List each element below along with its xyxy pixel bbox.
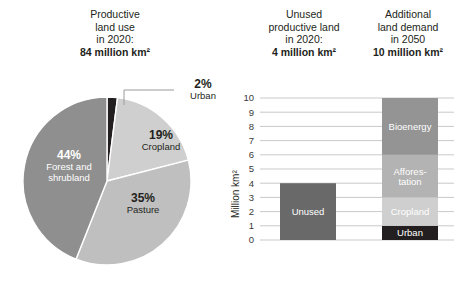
pie-label-forest-name2: shrubland bbox=[28, 172, 110, 183]
y-tick-10: 10 bbox=[243, 92, 254, 103]
pie-header-line2: land use bbox=[45, 21, 185, 34]
pie-label-forest: 44% Forest and shrubland bbox=[28, 150, 110, 183]
bar-segment-label-unused: Unused bbox=[292, 206, 325, 217]
y-tick-9: 9 bbox=[249, 107, 254, 118]
pie-label-urban: 2% Urban bbox=[176, 79, 230, 101]
unused-header-line3: in 2020: bbox=[250, 33, 358, 46]
demand-header-line3: in 2050 bbox=[358, 33, 458, 46]
unused-header-line1: Unused bbox=[250, 8, 358, 21]
bar-segment-label-afforestation: tation bbox=[398, 176, 421, 187]
unused-header-total: 4 million km² bbox=[250, 46, 358, 59]
y-tick-6: 6 bbox=[249, 149, 254, 160]
bar-chart: Million km² 012345678910 UnusedUrbanCrop… bbox=[236, 90, 458, 255]
pie-label-forest-name1: Forest and bbox=[28, 161, 110, 172]
y-tick-2: 2 bbox=[249, 206, 254, 217]
demand-panel-header: Additional land demand in 2050 10 millio… bbox=[358, 8, 458, 58]
demand-header-line1: Additional bbox=[358, 8, 458, 21]
pie-label-cropland-pct: 19% bbox=[128, 130, 194, 141]
pie-label-pasture-name: Pasture bbox=[110, 204, 176, 215]
pie-label-urban-pct: 2% bbox=[176, 79, 230, 90]
pie-label-cropland: 19% Cropland bbox=[128, 130, 194, 152]
demand-header-line2: land demand bbox=[358, 21, 458, 34]
y-tick-1: 1 bbox=[249, 220, 254, 231]
bar-segment-label-bioenergy: Bioenergy bbox=[389, 121, 432, 132]
pie-label-cropland-name: Cropland bbox=[128, 141, 194, 152]
y-tick-3: 3 bbox=[249, 192, 254, 203]
pie-label-pasture: 35% Pasture bbox=[110, 193, 176, 215]
y-tick-4: 4 bbox=[249, 178, 254, 189]
unused-header-line2: productive land bbox=[250, 21, 358, 34]
pie-label-pasture-pct: 35% bbox=[110, 193, 176, 204]
pie-header-line3: in 2020: bbox=[45, 33, 185, 46]
y-tick-0: 0 bbox=[249, 234, 254, 245]
figure-canvas: Productive land use in 2020: 84 million … bbox=[0, 0, 461, 282]
y-tick-5: 5 bbox=[249, 163, 254, 174]
demand-header-total: 10 million km² bbox=[358, 46, 458, 59]
urban-leader-line bbox=[123, 86, 175, 106]
bar-segment-label-cropland: Cropland bbox=[391, 206, 430, 217]
y-tick-label-group: 012345678910 bbox=[243, 92, 254, 245]
bar-chart-y-axis-label: Million km² bbox=[230, 170, 241, 218]
unused-panel-header: Unused productive land in 2020: 4 millio… bbox=[250, 8, 358, 58]
pie-label-forest-pct: 44% bbox=[28, 150, 110, 161]
pie-label-urban-name: Urban bbox=[176, 90, 230, 101]
pie-header-line1: Productive bbox=[45, 8, 185, 21]
bar-segment-label-urban: Urban bbox=[397, 227, 423, 238]
bar-chart-svg: 012345678910 UnusedUrbanCroplandAffores-… bbox=[236, 90, 458, 255]
y-tick-7: 7 bbox=[249, 135, 254, 146]
y-tick-8: 8 bbox=[249, 121, 254, 132]
pie-header-total: 84 million km² bbox=[45, 46, 185, 59]
pie-panel-header: Productive land use in 2020: 84 million … bbox=[45, 8, 185, 58]
